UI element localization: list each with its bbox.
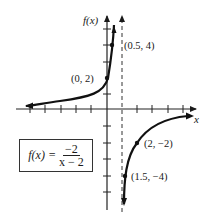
point-0.5-4 <box>110 43 114 47</box>
curve-left-branch <box>26 25 114 106</box>
point-2-neg2 <box>135 141 139 145</box>
point-label-2-neg2: (2, −2) <box>144 138 173 150</box>
formula-lhs: f(x) = <box>28 148 56 163</box>
x-axis-label: x <box>193 113 199 125</box>
point-label-1.5-neg4: (1.5, −4) <box>131 171 168 183</box>
point-1.5-neg4 <box>123 174 127 178</box>
x-axis <box>16 105 196 113</box>
y-axis <box>103 16 111 210</box>
point-label-0-2: (0, 2) <box>71 73 94 85</box>
formula-denominator: x − 2 <box>59 156 84 168</box>
formula-legend: f(x) = −2 x − 2 <box>19 139 93 172</box>
formula-fraction: −2 x − 2 <box>59 143 84 168</box>
curve-right-branch <box>124 116 188 204</box>
function-graph: f(x) x (0, 2) (0.5, 4) (2, −2) (1.5, −4) <box>0 0 210 223</box>
point-0-2 <box>105 76 109 80</box>
point-label-0.5-4: (0.5, 4) <box>124 40 155 52</box>
y-axis-label: f(x) <box>83 14 99 27</box>
